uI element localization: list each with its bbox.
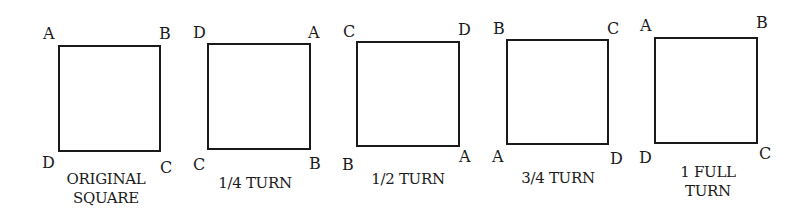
caption-three-quarter-turn: 3/4 TURN <box>508 169 608 188</box>
corner-label-bottom-left: B <box>342 157 354 173</box>
caption-half-turn: 1/2 TURN <box>358 170 458 189</box>
caption-full-turn-line1: 1 FULL <box>658 163 758 182</box>
square-original <box>58 45 161 152</box>
corner-label-top-left: A <box>640 18 652 34</box>
caption-quarter-turn: 1/4 TURN <box>205 174 305 193</box>
corner-label-top-left: C <box>343 24 355 40</box>
corner-label-bottom-right: B <box>309 156 321 172</box>
corner-label-top-right: B <box>159 26 171 42</box>
corner-label-top-left: D <box>193 25 206 41</box>
corner-label-top-right: B <box>756 15 768 31</box>
corner-label-top-right: A <box>308 25 320 41</box>
corner-label-top-left: A <box>43 26 55 42</box>
corner-label-top-right: C <box>607 21 619 37</box>
corner-label-bottom-left: A <box>492 149 504 165</box>
square-quarter-turn <box>207 43 311 150</box>
square-three-quarter-turn <box>506 39 609 145</box>
corner-label-bottom-right: C <box>160 160 172 176</box>
corner-label-top-right: D <box>458 22 471 38</box>
corner-label-bottom-left: D <box>42 155 55 171</box>
square-full-turn <box>654 37 758 144</box>
corner-label-bottom-left: D <box>639 150 652 166</box>
corner-label-bottom-right: A <box>459 149 471 165</box>
caption-original-line1: ORIGINAL <box>55 170 157 189</box>
square-half-turn <box>356 41 460 147</box>
corner-label-bottom-right: D <box>610 151 623 167</box>
caption-full-turn-line2: TURN <box>658 182 758 201</box>
corner-label-bottom-left: C <box>193 157 205 173</box>
caption-original-line2: SQUARE <box>55 189 157 208</box>
corner-label-top-left: B <box>493 21 505 37</box>
corner-label-bottom-right: C <box>759 146 771 162</box>
